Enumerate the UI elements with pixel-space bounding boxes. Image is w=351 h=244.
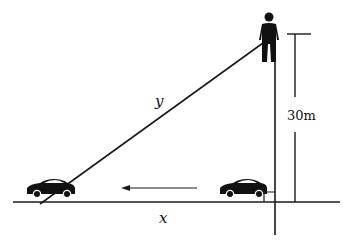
person-icon xyxy=(259,13,279,63)
motion-arrow-left-icon xyxy=(121,185,197,191)
label-height-30m: 30m xyxy=(287,108,316,123)
label-horizontal-x: x xyxy=(159,209,168,227)
hypotenuse-line xyxy=(40,43,263,204)
car-icon-left xyxy=(27,179,75,198)
label-hypotenuse-y: y xyxy=(154,92,164,110)
diagram-canvas: y x 30m xyxy=(0,0,351,244)
car-icon-right xyxy=(220,179,267,198)
